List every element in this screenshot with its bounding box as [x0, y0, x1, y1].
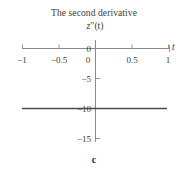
x-tick-label-0-5: 0.5: [126, 55, 137, 65]
x-tick-label-0: 0: [86, 55, 91, 65]
figure-panel: The second derivative z′′(t) t: [0, 0, 188, 174]
y-tick-label--10: −10: [68, 104, 91, 114]
y-axis-label: z′′(t): [87, 21, 104, 32]
y-tick-label-0: 0: [68, 44, 91, 54]
y-axis-label-arg: (t): [94, 21, 103, 31]
y-tick-label--15: −15: [68, 134, 91, 144]
x-tick-label--1: −1: [17, 55, 27, 65]
y-tick-label--5: −5: [68, 74, 91, 84]
x-axis-label: t: [172, 42, 175, 53]
x-tick-label--0-5: −0.5: [51, 55, 67, 65]
x-tick-label-1: 1: [166, 55, 171, 65]
figure-caption: c: [0, 154, 188, 166]
